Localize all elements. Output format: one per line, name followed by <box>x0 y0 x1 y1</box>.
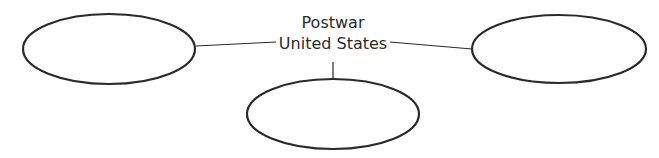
center-topic-line1: Postwar <box>263 12 403 33</box>
center-topic-label: Postwar United States <box>263 12 403 54</box>
blank-node-bottom[interactable] <box>247 79 419 149</box>
blank-node-left[interactable] <box>23 14 195 84</box>
blank-node-right[interactable] <box>472 15 646 83</box>
center-topic-line2: United States <box>277 33 389 54</box>
